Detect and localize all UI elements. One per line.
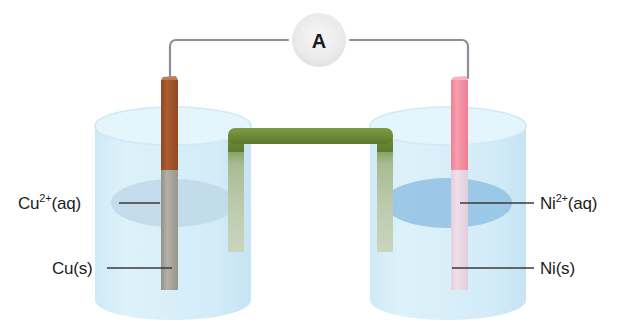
salt-bridge-right-arm — [377, 140, 393, 252]
diagram-svg: A — [0, 0, 619, 333]
label-cu2plus-base: Cu — [18, 194, 39, 213]
nickel-electrode-top-bevel — [451, 76, 468, 80]
label-ni-solid: Ni(s) — [540, 259, 575, 279]
right-beaker — [370, 107, 526, 320]
label-cu2plus-aq: Cu2+(aq) — [18, 194, 81, 214]
label-ni2plus-phase: (aq) — [568, 194, 597, 213]
ammeter-symbol: A — [312, 30, 326, 52]
salt-bridge-top-bar — [228, 128, 393, 144]
ammeter[interactable]: A — [292, 13, 346, 67]
label-ni2plus-aq: Ni2+(aq) — [540, 194, 597, 214]
label-cu2plus-charge: 2+ — [39, 192, 51, 204]
copper-electrode-submerged — [161, 168, 178, 290]
label-ni2plus-base: Ni — [540, 194, 556, 213]
copper-electrode-exposed — [161, 80, 178, 170]
nickel-electrode-submerged — [451, 168, 468, 290]
nickel-electrode-exposed — [451, 80, 468, 170]
label-cu-solid: Cu(s) — [52, 259, 93, 279]
salt-bridge — [228, 128, 393, 252]
wire-right-segment — [350, 40, 468, 78]
nickel-electrode — [451, 76, 468, 290]
wire-left-segment — [170, 40, 288, 78]
cell-diagram-canvas: A Cu2+(aq) Cu(s) Ni2+(aq) Ni(s) — [0, 0, 619, 333]
salt-bridge-left-arm — [228, 140, 244, 252]
label-ni2plus-charge: 2+ — [556, 192, 568, 204]
copper-electrode — [161, 76, 178, 290]
label-cu2plus-phase: (aq) — [52, 194, 81, 213]
